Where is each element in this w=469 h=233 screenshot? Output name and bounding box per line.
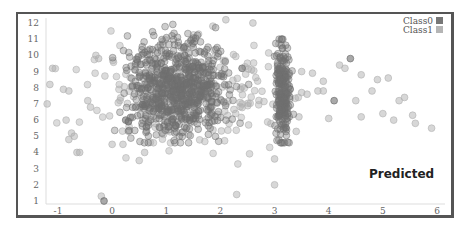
legend-swatch bbox=[436, 17, 443, 24]
legend: Class0Class1 bbox=[403, 16, 443, 35]
x-tick-label: 2 bbox=[218, 206, 224, 216]
y-tick-label: 3 bbox=[33, 164, 39, 174]
y-tick-label: 11 bbox=[28, 34, 39, 44]
y-tick-label: 8 bbox=[33, 83, 39, 93]
x-tick-label: 1 bbox=[163, 206, 169, 216]
y-tick-label: 9 bbox=[33, 67, 39, 77]
legend-swatch bbox=[436, 26, 443, 33]
y-tick-label: 6 bbox=[33, 115, 39, 125]
x-tick-label: 5 bbox=[380, 206, 386, 216]
y-tick-label: 5 bbox=[33, 131, 39, 141]
y-tick-label: 4 bbox=[33, 147, 39, 157]
y-tick-label: 7 bbox=[33, 99, 39, 109]
y-tick-label: 2 bbox=[33, 180, 39, 190]
x-tick-label: 3 bbox=[272, 206, 278, 216]
y-tick-label: 10 bbox=[28, 50, 40, 60]
predicted-annotation: Predicted bbox=[369, 167, 434, 181]
scatter-plot: 123456789101112-10123456 Class0Class1 Pr… bbox=[0, 0, 469, 233]
x-tick-label: -1 bbox=[54, 206, 63, 216]
x-tick-label: 0 bbox=[109, 206, 115, 216]
x-tick-label: 4 bbox=[326, 206, 332, 216]
legend-label: Class1 bbox=[403, 25, 433, 35]
y-tick-label: 12 bbox=[28, 18, 39, 28]
y-tick-label: 1 bbox=[33, 196, 39, 206]
x-tick-label: 6 bbox=[434, 206, 440, 216]
